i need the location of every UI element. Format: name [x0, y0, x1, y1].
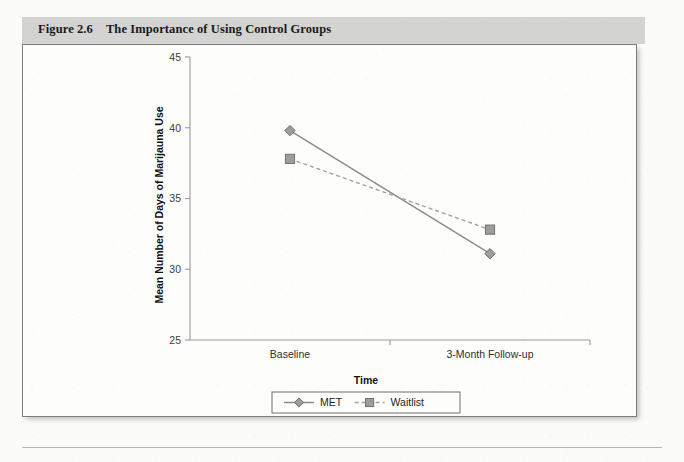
figure-title: The Importance of Using Control Groups: [106, 22, 331, 36]
page-bottom-rule: [22, 447, 662, 448]
figure-caption: Figure 2.6The Importance of Using Contro…: [38, 22, 331, 37]
figure-number: Figure 2.6: [38, 22, 93, 36]
figure-plot-frame: [22, 44, 637, 417]
